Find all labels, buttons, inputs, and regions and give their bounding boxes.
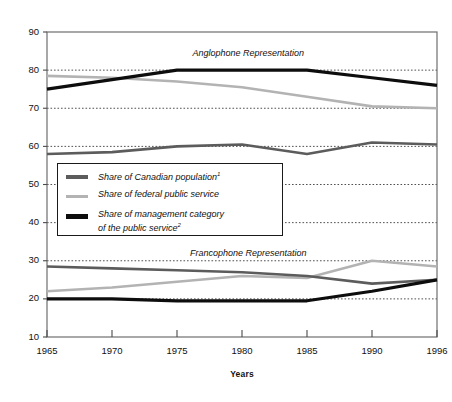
legend-label-text-line2: of the public service [98,223,178,233]
y-axis-tick-label: 30 [1,254,39,265]
annotation-anglophone: Anglophone Representation [163,48,333,58]
data-line [47,261,437,292]
legend-item-management-category: Share of management category of the publ… [58,209,282,234]
x-axis-ticks [47,330,437,337]
legend-footnote-marker-2: 2 [178,222,181,228]
chart-legend: Share of Canadian population1 Share of f… [57,163,283,236]
chart-figure: 908070605040302010 196519701975198019851… [0,0,452,402]
legend-label-canadian-population: Share of Canadian population1 [98,169,220,183]
x-axis-tick-label: 1990 [348,345,396,356]
x-axis-tick-label: 1996 [413,345,452,356]
x-axis-tick-label: 1965 [23,345,71,356]
legend-item-canadian-population: Share of Canadian population1 [58,169,282,189]
legend-footnote-marker-1: 1 [217,171,220,177]
y-axis-tick-label: 50 [1,178,39,189]
y-axis-tick-label: 70 [1,102,39,113]
y-axis-tick-label: 10 [1,331,39,342]
x-axis-tick-label: 1985 [283,345,331,356]
line-swatch-canadian-population [66,175,88,179]
line-swatch-management-category [66,214,88,219]
legend-label-federal-public-service: Share of federal public service [98,189,219,200]
y-axis-tick-label: 60 [1,140,39,151]
y-axis-tick-label: 20 [1,292,39,303]
legend-label-text: Share of federal public service [98,189,219,199]
x-axis-tick-label: 1970 [88,345,136,356]
line-swatch-federal-public-service [66,195,88,198]
legend-label-management-category: Share of management category of the publ… [98,209,224,234]
x-axis-title: Years [17,369,452,379]
legend-label-text: Share of Canadian population [98,172,217,182]
data-line [47,143,437,154]
legend-label-text-line1: Share of management category [98,209,224,219]
x-axis-tick-label: 1975 [153,345,201,356]
legend-item-federal-public-service: Share of federal public service [58,189,282,209]
y-axis-tick-label: 40 [1,216,39,227]
y-axis-tick-label: 90 [1,26,39,37]
annotation-francophone: Francophone Representation [160,248,336,258]
y-axis-tick-label: 80 [1,64,39,75]
x-axis-tick-label: 1980 [218,345,266,356]
